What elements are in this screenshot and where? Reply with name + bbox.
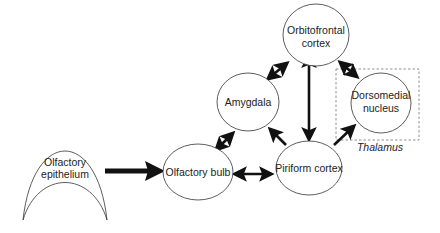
orbitofrontal-label-line1: Orbitofrontal [287, 24, 345, 36]
edge-piriform-to-dorsomedial [334, 127, 353, 145]
amygdala-label: Amygdala [225, 96, 272, 108]
node-amygdala: Amygdala [217, 73, 279, 131]
piriform-label: Piriform cortex [275, 162, 343, 174]
epithelium-label-line1: Olfactory [44, 156, 87, 168]
edge-piriform-to-amygdala [271, 130, 286, 145]
edge-amygdala-orbitofrontal [269, 64, 286, 78]
node-olfactory-bulb: Olfactory bulb [163, 144, 233, 200]
olfactory-pathway-diagram: Thalamus Olfactory epithelium Olfactory … [0, 0, 440, 233]
node-orbitofrontal-cortex: Orbitofrontal cortex [283, 4, 349, 66]
edge-orbitofrontal-dorsomedial [341, 63, 356, 76]
olfactory-bulb-label: Olfactory bulb [166, 166, 231, 178]
orbitofrontal-label-line2: cortex [302, 37, 331, 49]
node-olfactory-epithelium: Olfactory epithelium [23, 151, 107, 220]
node-dorsomedial-nucleus: Dorsomedial nucleus [351, 73, 411, 133]
dorsomedial-label-line2: nucleus [363, 102, 399, 114]
epithelium-label-line2: epithelium [41, 168, 89, 180]
node-piriform-cortex: Piriform cortex [275, 141, 343, 195]
dorsomedial-label-line1: Dorsomedial [352, 89, 411, 101]
edge-bulb-amygdala [217, 134, 232, 149]
thalamus-label: Thalamus [357, 141, 404, 153]
